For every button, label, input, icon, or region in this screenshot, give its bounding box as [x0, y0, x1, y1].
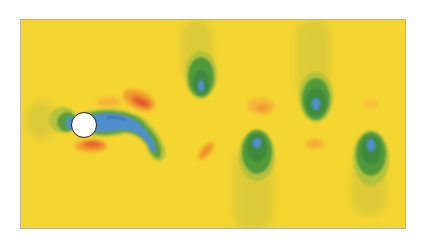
lower-vortex-2 — [353, 130, 389, 186]
vorticity-contour-plot — [21, 20, 406, 229]
lower-vortex-1 — [239, 129, 275, 181]
cylinder — [72, 113, 97, 138]
upper-vortex-2 — [299, 72, 333, 122]
contour-plot-frame — [20, 19, 406, 229]
upper-vortex-1 — [185, 51, 217, 99]
